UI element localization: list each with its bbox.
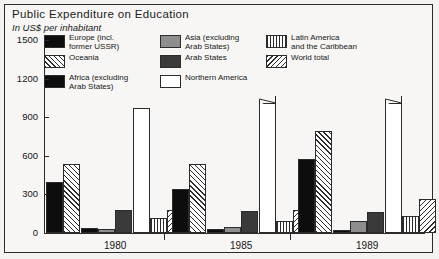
bar-1989-world-total [419, 199, 436, 233]
bar-1980-africa-excluding-arab-states [81, 228, 98, 233]
bar-1989-asia-excluding-arab-states [350, 221, 367, 233]
bar-1985-europe-incl-former-ussr [172, 189, 189, 233]
bar-1980-oceania [63, 164, 80, 233]
legend-column-2: Asia (excluding Arab States) Arab States… [160, 34, 247, 94]
bar-1989-latin-america-and-the-caribbean [402, 216, 419, 233]
bar-1989-northern-america [385, 103, 402, 233]
legend-label-africa: Africa (excluding Arab States) [69, 74, 128, 91]
legend-label-world-total: World total [291, 54, 329, 63]
chart-title: Public Expenditure on Education [12, 8, 189, 20]
bar-1985-arab-states [241, 211, 258, 233]
legend-swatch-northern-america [160, 75, 181, 88]
bar-1980-asia-excluding-arab-states [98, 229, 115, 233]
y-tick-900 [44, 117, 49, 118]
y-label-900: 900 [4, 111, 38, 122]
legend-label-asia: Asia (excluding Arab States) [185, 34, 239, 51]
x-axis-line [44, 233, 425, 234]
y-label-600: 600 [4, 150, 38, 161]
x-label-1980: 1980 [85, 240, 145, 251]
legend-swatch-arab-states [160, 55, 181, 68]
x-label-1985: 1985 [211, 240, 271, 251]
chart-legend: Europe (incl. former USSR) Oceania Afric… [44, 34, 374, 92]
legend-swatch-asia [160, 35, 181, 48]
bar-1985-latin-america-and-the-caribbean [276, 221, 293, 233]
legend-item-oceania: Oceania [44, 54, 128, 71]
y-label-1200: 1200 [4, 73, 38, 84]
chart-title-text: Public Expenditure on Education [12, 8, 189, 20]
bar-1985-africa-excluding-arab-states [207, 229, 224, 233]
bar-1989-africa-excluding-arab-states [333, 230, 350, 233]
legend-label-latin-america: Latin America and the Caribbean [291, 34, 357, 51]
legend-item-northern-america: Northern America [160, 74, 247, 91]
x-group-separator [290, 233, 291, 240]
bar-1985-northern-america [259, 103, 276, 233]
bar-1989-arab-states [367, 212, 384, 233]
legend-label-europe: Europe (incl. former USSR) [69, 34, 119, 51]
bar-1980-arab-states [115, 210, 132, 233]
y-tick-1500 [44, 40, 49, 41]
y-label-1500: 1500 [4, 34, 38, 45]
y-tick-1200 [44, 79, 49, 80]
legend-column-1: Europe (incl. former USSR) Oceania Afric… [44, 34, 128, 94]
x-group-separator [164, 233, 165, 240]
legend-item-world-total: World total [266, 54, 357, 71]
bar-1980-latin-america-and-the-caribbean [150, 218, 167, 233]
legend-item-latin-america: Latin America and the Caribbean [266, 34, 357, 51]
bar-1980-northern-america [133, 108, 150, 233]
legend-swatch-oceania [44, 55, 65, 68]
chart-screenshot: Public Expenditure on Education In US$ p… [0, 0, 439, 259]
axis-break-mark [385, 92, 402, 101]
legend-label-northern-america: Northern America [185, 74, 247, 83]
chart-subtitle: In US$ per inhabitant [12, 22, 101, 33]
bar-1985-asia-excluding-arab-states [224, 227, 241, 233]
legend-swatch-europe [44, 35, 65, 48]
bar-1989-europe-incl-former-ussr [298, 159, 315, 233]
legend-swatch-africa [44, 75, 65, 88]
axis-break-mark [259, 92, 276, 101]
y-tick-600 [44, 156, 49, 157]
bar-1980-europe-incl-former-ussr [46, 182, 63, 233]
bar-1989-oceania [315, 131, 332, 233]
legend-item-asia: Asia (excluding Arab States) [160, 34, 247, 51]
y-tick-0 [44, 233, 49, 234]
legend-column-3: Latin America and the Caribbean World to… [266, 34, 357, 74]
legend-item-europe: Europe (incl. former USSR) [44, 34, 128, 51]
bar-1985-oceania [189, 164, 206, 233]
x-label-1989: 1989 [337, 240, 397, 251]
legend-item-africa: Africa (excluding Arab States) [44, 74, 128, 91]
legend-item-arab-states: Arab States [160, 54, 247, 71]
legend-swatch-latin-america [266, 35, 287, 48]
y-label-300: 300 [4, 188, 38, 199]
legend-label-arab-states: Arab States [185, 54, 227, 63]
y-label-0: 0 [4, 227, 38, 238]
legend-label-oceania: Oceania [69, 54, 99, 63]
legend-swatch-world-total [266, 55, 287, 68]
y-axis-line [44, 40, 45, 234]
